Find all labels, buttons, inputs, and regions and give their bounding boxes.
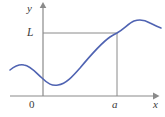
marker-label-a: a xyxy=(112,99,118,110)
limit-graph-figure: y x L a 0 xyxy=(0,0,165,117)
level-label-L: L xyxy=(27,27,33,39)
graph-canvas xyxy=(0,0,165,117)
y-axis-arrow-icon xyxy=(40,2,47,8)
x-axis-label: x xyxy=(153,99,158,110)
y-axis-label: y xyxy=(27,3,32,14)
origin-label: 0 xyxy=(29,99,35,110)
